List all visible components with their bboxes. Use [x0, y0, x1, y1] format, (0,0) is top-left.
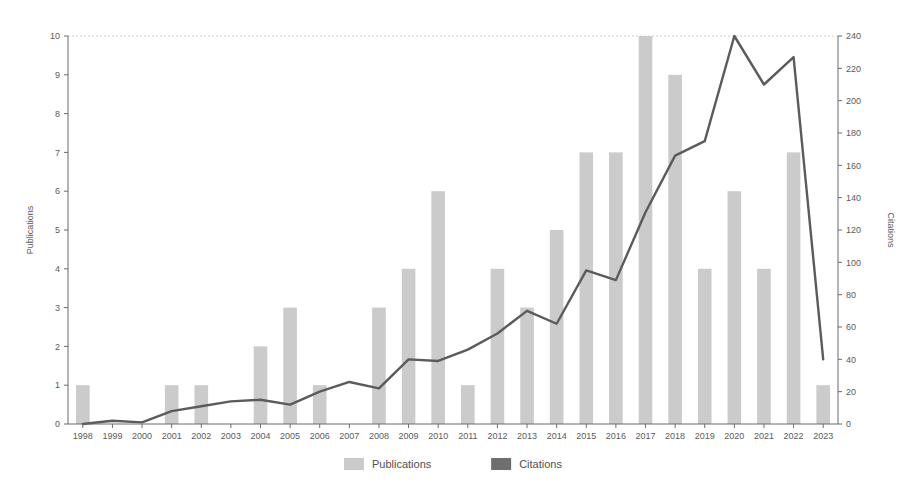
x-tick-label: 2012	[487, 431, 507, 441]
left-tick-label: 6	[55, 186, 60, 196]
x-tick-label: 2004	[250, 431, 270, 441]
bar-2017	[639, 36, 653, 424]
right-tick-label: 60	[846, 322, 856, 332]
x-tick-label: 2005	[280, 431, 300, 441]
x-tick-label: 2023	[813, 431, 833, 441]
right-tick-label: 80	[846, 290, 856, 300]
bar-2008	[372, 308, 386, 424]
chart-container: 012345678910 020406080100120140160180200…	[0, 0, 915, 497]
bar-2015	[579, 152, 593, 424]
x-tick-label: 2008	[369, 431, 389, 441]
x-tick-label: 2003	[221, 431, 241, 441]
legend-label-citations[interactable]: Citations	[519, 458, 562, 470]
bar-1998	[76, 385, 90, 424]
x-tick-label: 2020	[724, 431, 744, 441]
bar-2004	[254, 346, 268, 424]
x-tick-label: 2002	[191, 431, 211, 441]
left-tick-label: 5	[55, 225, 60, 235]
left-tick-label: 10	[50, 31, 60, 41]
bar-2021	[757, 269, 771, 424]
x-tick-label: 2019	[695, 431, 715, 441]
x-tick-label: 2000	[132, 431, 152, 441]
right-tick-label: 0	[846, 419, 851, 429]
bar-2016	[609, 152, 623, 424]
x-tick-label: 2009	[399, 431, 419, 441]
bar-2014	[550, 230, 564, 424]
left-tick-label: 3	[55, 303, 60, 313]
x-tick-label: 2007	[339, 431, 359, 441]
left-tick-label: 8	[55, 109, 60, 119]
left-tick-label: 4	[55, 264, 60, 274]
x-tick-label: 2022	[784, 431, 804, 441]
bar-2018	[668, 75, 682, 424]
x-tick-label: 2021	[754, 431, 774, 441]
right-tick-label: 180	[846, 128, 861, 138]
left-tick-label: 7	[55, 148, 60, 158]
x-tick-label: 2010	[428, 431, 448, 441]
right-tick-label: 240	[846, 31, 861, 41]
x-tick-label: 2015	[576, 431, 596, 441]
x-tick-label: 2017	[635, 431, 655, 441]
legend-swatch-publications[interactable]	[344, 458, 364, 470]
x-tick-label: 1999	[102, 431, 122, 441]
x-tick-label: 2018	[665, 431, 685, 441]
left-tick-label: 9	[55, 70, 60, 80]
dual-axis-chart: 012345678910 020406080100120140160180200…	[0, 0, 915, 497]
bar-2020	[728, 191, 742, 424]
bar-2019	[698, 269, 712, 424]
bar-2023	[816, 385, 830, 424]
x-tick-label: 2006	[310, 431, 330, 441]
bar-2013	[520, 308, 534, 424]
x-tick-label: 2013	[517, 431, 537, 441]
right-tick-label: 100	[846, 258, 861, 268]
x-tick-label: 1998	[73, 431, 93, 441]
right-axis-title: Citations	[886, 212, 896, 248]
left-tick-label: 2	[55, 342, 60, 352]
right-tick-label: 220	[846, 64, 861, 74]
bar-2011	[461, 385, 475, 424]
right-tick-label: 120	[846, 225, 861, 235]
legend-label-publications[interactable]: Publications	[372, 458, 432, 470]
left-axis-title: Publications	[25, 205, 35, 254]
left-tick-label: 1	[55, 380, 60, 390]
bar-2022	[787, 152, 801, 424]
right-tick-label: 20	[846, 387, 856, 397]
left-tick-label: 0	[55, 419, 60, 429]
x-tick-label: 2016	[606, 431, 626, 441]
right-tick-label: 200	[846, 96, 861, 106]
bar-2005	[283, 308, 297, 424]
x-tick-label: 2014	[547, 431, 567, 441]
right-tick-label: 160	[846, 161, 861, 171]
right-tick-label: 40	[846, 355, 856, 365]
x-tick-label: 2011	[458, 431, 477, 441]
bar-2010	[431, 191, 445, 424]
bar-2009	[402, 269, 416, 424]
bar-2012	[491, 269, 505, 424]
x-tick-label: 2001	[162, 431, 182, 441]
right-tick-label: 140	[846, 193, 861, 203]
bar-2001	[165, 385, 179, 424]
legend-swatch-citations[interactable]	[491, 458, 511, 470]
